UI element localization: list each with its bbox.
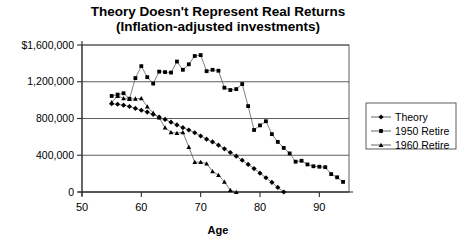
marker-square <box>151 82 155 86</box>
marker-square <box>258 123 262 127</box>
x-axis-tick-labels: 5060708090 <box>76 201 326 213</box>
legend-label: 1950 Retire <box>395 125 449 137</box>
y-tick-label: $1,600,000 <box>21 39 74 51</box>
marker-diamond <box>127 104 132 109</box>
marker-diamond <box>163 117 168 122</box>
marker-diamond <box>210 139 215 144</box>
marker-diamond <box>246 162 251 167</box>
y-tick-label: 800,000 <box>36 112 74 124</box>
marker-triangle <box>163 125 168 129</box>
marker-square <box>246 104 250 108</box>
marker-square <box>157 70 161 74</box>
marker-diamond <box>234 154 239 159</box>
chart-subtitle: (Inflation-adjusted investments) <box>116 19 320 34</box>
chart-legend: Theory1950 Retire1960 Retire <box>366 103 456 151</box>
marker-square <box>294 160 298 164</box>
x-tick-label: 50 <box>76 201 88 213</box>
marker-diamond <box>115 102 120 107</box>
marker-square <box>175 60 179 64</box>
marker-square <box>282 146 286 150</box>
x-tick-label: 80 <box>254 201 266 213</box>
marker-square <box>264 119 268 123</box>
x-tick-label: 70 <box>195 201 207 213</box>
marker-square <box>335 175 339 179</box>
data-series-group <box>109 53 345 194</box>
marker-diamond <box>133 106 138 111</box>
y-tick-label: 400,000 <box>36 149 74 161</box>
marker-diamond <box>222 146 227 151</box>
marker-square <box>193 54 197 58</box>
y-tick-label: 0 <box>68 186 74 198</box>
marker-square <box>306 163 310 167</box>
marker-square <box>323 165 327 169</box>
marker-diamond <box>174 122 179 127</box>
marker-square <box>252 128 256 132</box>
marker-square <box>288 152 292 156</box>
marker-square <box>270 132 274 136</box>
marker-square <box>329 172 333 176</box>
marker-diamond <box>168 120 173 125</box>
marker-diamond <box>228 150 233 155</box>
chart-figure: Theory Doesn't Represent Real Returns (I… <box>0 0 467 252</box>
marker-diamond <box>139 108 144 113</box>
marker-square <box>276 140 280 144</box>
series-line <box>112 104 284 192</box>
marker-square <box>317 165 321 169</box>
chart-title: Theory Doesn't Represent Real Returns <box>91 4 346 19</box>
marker-diamond <box>186 127 191 132</box>
marker-square <box>169 71 173 75</box>
marker-square <box>379 129 383 133</box>
marker-diamond <box>180 125 185 130</box>
x-tick-label: 60 <box>135 201 147 213</box>
marker-diamond <box>216 143 221 148</box>
legend-label: Theory <box>395 111 428 123</box>
y-tick-label: 1,200,000 <box>27 75 74 87</box>
x-tick-label: 90 <box>313 201 325 213</box>
marker-square <box>205 69 209 73</box>
legend-label: 1960 Retire <box>395 139 449 151</box>
marker-diamond <box>121 103 126 108</box>
marker-square <box>223 86 227 90</box>
series-theory <box>109 101 286 194</box>
marker-square <box>217 69 221 73</box>
marker-diamond <box>192 130 197 135</box>
marker-square <box>199 53 203 57</box>
marker-square <box>228 88 232 92</box>
marker-square <box>139 64 143 68</box>
marker-triangle <box>216 173 221 177</box>
marker-square <box>240 82 244 86</box>
marker-diamond <box>240 158 245 163</box>
marker-triangle <box>121 96 126 100</box>
marker-square <box>134 76 138 80</box>
marker-triangle <box>180 130 185 134</box>
marker-diamond <box>198 133 203 138</box>
marker-square <box>187 62 191 66</box>
marker-square <box>163 70 167 74</box>
x-axis-title: Age <box>208 224 229 236</box>
y-axis-tick-labels: 0400,000800,0001,200,000$1,600,000 <box>21 39 82 198</box>
marker-square <box>211 68 215 72</box>
marker-square <box>234 87 238 91</box>
marker-square <box>145 75 149 79</box>
marker-square <box>181 68 185 72</box>
marker-square <box>110 94 114 98</box>
marker-square <box>312 164 316 168</box>
marker-triangle <box>186 145 191 149</box>
marker-square <box>300 159 304 163</box>
marker-diamond <box>204 137 209 142</box>
marker-diamond <box>145 110 150 115</box>
marker-square <box>122 91 126 95</box>
marker-square <box>341 180 345 184</box>
gridlines <box>82 45 349 192</box>
